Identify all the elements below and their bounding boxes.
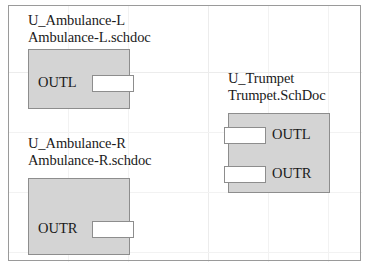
sheet-entry-port-outr[interactable] [92, 221, 134, 238]
sheet-entry-port-label: OUTL [38, 74, 77, 90]
sheet-designator-label: U_Ambulance-R [28, 135, 126, 152]
schematic-sheet: U_Ambulance-L Ambulance-L.schdoc OUTL U_… [0, 0, 371, 277]
sheet-symbol-body[interactable] [28, 178, 130, 255]
sheet-entry-port-outl[interactable] [224, 127, 266, 144]
sheet-symbol-ambulance-r[interactable]: U_Ambulance-R Ambulance-R.schdoc OUTR [28, 135, 188, 256]
sheet-entry-port-outl[interactable] [92, 75, 134, 92]
sheet-symbol-ambulance-l[interactable]: U_Ambulance-L Ambulance-L.schdoc OUTL [28, 12, 188, 117]
sheet-entry-port-label: OUTL [272, 126, 311, 142]
sheet-designator-label: U_Ambulance-L [28, 12, 125, 29]
sheet-filename-label: Ambulance-R.schdoc [28, 152, 151, 169]
sheet-entry-port-label: OUTR [272, 165, 311, 181]
sheet-entry-port-outr[interactable] [224, 166, 266, 183]
sheet-designator-label: U_Trumpet [228, 70, 294, 87]
sheet-symbol-trumpet[interactable]: U_Trumpet Trumpet.SchDoc OUTL OUTR [228, 70, 358, 194]
sheet-entry-port-label: OUTR [38, 220, 77, 236]
sheet-filename-label: Trumpet.SchDoc [228, 87, 326, 104]
sheet-filename-label: Ambulance-L.schdoc [28, 29, 151, 46]
